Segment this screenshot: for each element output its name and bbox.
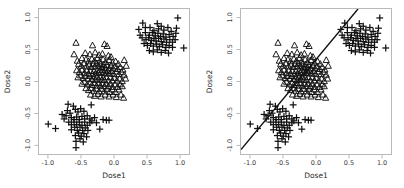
y-axis-title-right-text: Dose2 (206, 70, 215, 94)
x-tick-label: 1.0 (175, 160, 185, 167)
cluster-center-triangles (273, 40, 331, 101)
y-tick-label: 0.0 (22, 77, 34, 87)
y-tick-label: 1.0 (22, 13, 34, 23)
y-tick-label: -1.0 (22, 140, 34, 150)
y-tick-label: 1.0 (224, 13, 236, 23)
y-tick-label: 0.0 (224, 77, 236, 87)
y-tick-label: 0.5 (224, 45, 236, 55)
y-axis-title-right: Dose2 (204, 8, 216, 155)
x-tick-label: 0.5 (142, 160, 152, 167)
y-axis-title-left: Dose2 (2, 8, 14, 155)
scatter-canvas-left (39, 9, 191, 156)
y-tick-label: -1.0 (224, 140, 236, 150)
cluster-upper-right-plus (337, 15, 389, 57)
y-axis-title-left-text: Dose2 (4, 70, 13, 94)
scatter-panel-right: -1.0-0.50.00.51.0 -1.0-0.50.00.51.0 Dose… (202, 0, 404, 188)
cluster-center-triangles (71, 40, 129, 101)
cluster-lower-left-plus (247, 101, 315, 151)
scatter-panel-left: -1.0-0.50.00.51.0 -1.0-0.50.00.51.0 Dose… (0, 0, 202, 188)
x-tick-label: -0.5 (75, 160, 88, 167)
figure-root: -1.0-0.50.00.51.0 -1.0-0.50.00.51.0 Dose… (0, 0, 404, 188)
cluster-upper-right-plus (135, 15, 187, 57)
x-tick-label: 1.0 (377, 160, 387, 167)
diagonal-reference-line (241, 9, 358, 150)
x-tick-label: -0.5 (277, 160, 290, 167)
y-tick-label: 0.5 (22, 45, 34, 55)
plot-area-left (38, 8, 190, 155)
x-axis-title-right: Dose1 (240, 171, 392, 180)
x-tick-label: 0.0 (311, 160, 321, 167)
x-tick-label: -1.0 (42, 160, 55, 167)
cluster-lower-left-plus (45, 101, 113, 151)
y-tick-label: -0.5 (224, 108, 236, 118)
scatter-canvas-right (241, 9, 393, 156)
x-tick-label: 0.0 (109, 160, 119, 167)
x-tick-label: 0.5 (344, 160, 354, 167)
y-tick-label: -0.5 (22, 108, 34, 118)
x-axis-title-left: Dose1 (38, 171, 190, 180)
plot-area-right (240, 8, 392, 155)
x-tick-label: -1.0 (244, 160, 257, 167)
